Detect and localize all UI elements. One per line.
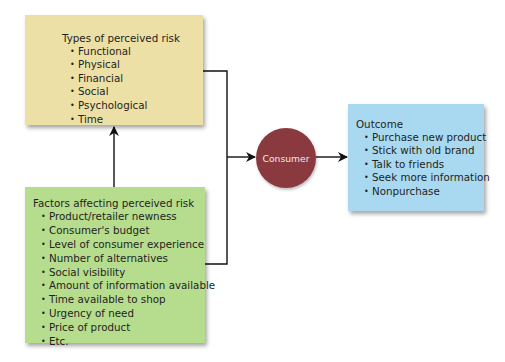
list-item: Social visibility: [41, 266, 205, 280]
list-item: Time: [70, 113, 203, 127]
list-item: Consumer's budget: [41, 224, 205, 238]
consumer-node: Consumer: [256, 128, 316, 188]
outcome-list: Purchase new product Stick with old bran…: [356, 131, 484, 199]
list-item: Number of alternatives: [41, 252, 205, 266]
list-item: Level of consumer experience: [41, 238, 205, 252]
list-item: Product/retailer newness: [41, 210, 205, 224]
list-item: Physical: [70, 58, 203, 72]
types-of-risk-list: Functional Physical Financial Social Psy…: [62, 45, 203, 127]
factors-list: Product/retailer newness Consumer's budg…: [33, 210, 205, 349]
types-of-risk-box: Types of perceived risk Functional Physi…: [25, 15, 203, 125]
list-item: Social: [70, 85, 203, 99]
list-item: Seek more information: [364, 171, 484, 185]
list-item: Functional: [70, 45, 203, 59]
list-item: Time available to shop: [41, 293, 205, 307]
outcome-box: Outcome Purchase new product Stick with …: [348, 104, 484, 211]
list-item: Psychological: [70, 99, 203, 113]
list-item: Urgency of need: [41, 307, 205, 321]
outcome-title: Outcome: [356, 118, 484, 131]
bracket-line: [203, 71, 227, 264]
list-item: Talk to friends: [364, 158, 484, 172]
list-item: Nonpurchase: [364, 185, 484, 199]
list-item: Etc.: [41, 335, 205, 349]
factors-affecting-risk-box: Factors affecting perceived risk Product…: [25, 187, 205, 343]
list-item: Amount of information available: [41, 279, 205, 293]
list-item: Stick with old brand: [364, 144, 484, 158]
list-item: Financial: [70, 72, 203, 86]
list-item: Price of product: [41, 321, 205, 335]
consumer-label: Consumer: [263, 153, 310, 164]
types-of-risk-title: Types of perceived risk: [62, 32, 203, 45]
factors-title: Factors affecting perceived risk: [33, 197, 205, 210]
list-item: Purchase new product: [364, 131, 484, 145]
